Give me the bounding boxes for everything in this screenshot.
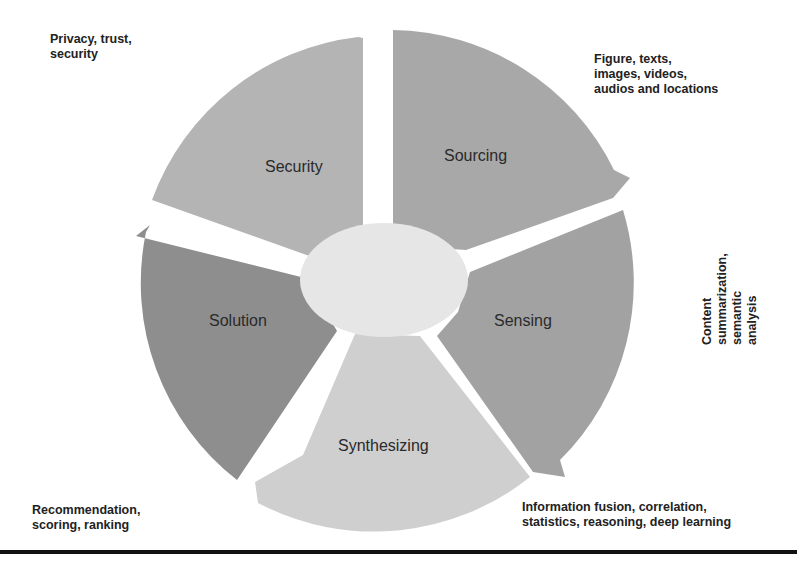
note-sourcing: Figure, texts, images, videos, audios an… xyxy=(594,52,718,97)
label-sensing: Sensing xyxy=(494,312,552,329)
note-security: Privacy, trust, security xyxy=(50,32,132,62)
label-synthesizing: Synthesizing xyxy=(338,437,429,454)
note-synthesizing: Information fusion, correlation, statist… xyxy=(522,500,731,530)
center-hub xyxy=(300,223,468,337)
segment-security xyxy=(152,37,363,258)
label-sourcing: Sourcing xyxy=(444,147,507,164)
bottom-rule xyxy=(0,550,797,554)
label-security: Security xyxy=(265,158,323,175)
note-solution: Recommendation, scoring, ranking xyxy=(32,503,140,533)
label-solution: Solution xyxy=(209,312,267,329)
note-sensing: Content summarization, semantic analysis xyxy=(700,248,760,345)
